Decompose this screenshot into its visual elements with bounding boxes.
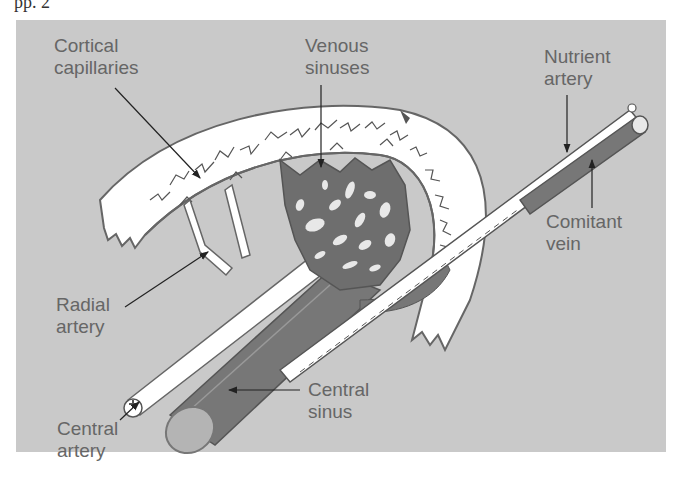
label-central-artery: Central artery bbox=[57, 418, 118, 462]
label-venous-sinuses: Venous sinuses bbox=[305, 35, 369, 79]
label-line: Comitant bbox=[546, 211, 622, 233]
label-nutrient-artery: Nutrient artery bbox=[544, 46, 611, 90]
label-line: sinus bbox=[308, 401, 369, 423]
label-line: Cortical bbox=[54, 35, 138, 57]
label-line: Central bbox=[57, 418, 118, 440]
label-line: Nutrient bbox=[544, 46, 611, 68]
label-central-sinus: Central sinus bbox=[308, 379, 369, 423]
label-radial-artery: Radial artery bbox=[56, 294, 110, 338]
label-line: capillaries bbox=[54, 57, 138, 79]
label-line: vein bbox=[546, 233, 622, 255]
label-line: artery bbox=[57, 440, 118, 462]
label-cortical-capillaries: Cortical capillaries bbox=[54, 35, 138, 79]
label-comitant-vein: Comitant vein bbox=[546, 211, 622, 255]
label-line: Central bbox=[308, 379, 369, 401]
label-line: sinuses bbox=[305, 57, 369, 79]
label-line: Venous bbox=[305, 35, 369, 57]
label-line: artery bbox=[544, 68, 611, 90]
label-line: Radial bbox=[56, 294, 110, 316]
label-line: artery bbox=[56, 316, 110, 338]
